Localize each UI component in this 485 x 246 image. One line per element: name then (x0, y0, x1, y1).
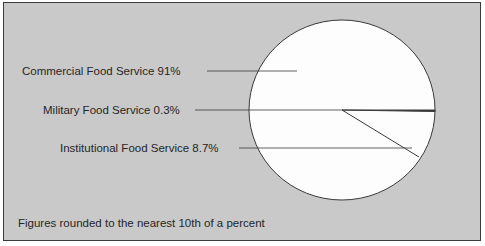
label-military: Military Food Service 0.3% (43, 104, 180, 117)
label-commercial: Commercial Food Service 91% (22, 65, 181, 78)
pie-chart (0, 0, 485, 246)
rounding-note: Figures rounded to the nearest 10th of a… (18, 217, 265, 229)
label-institutional: Institutional Food Service 8.7% (60, 142, 219, 155)
